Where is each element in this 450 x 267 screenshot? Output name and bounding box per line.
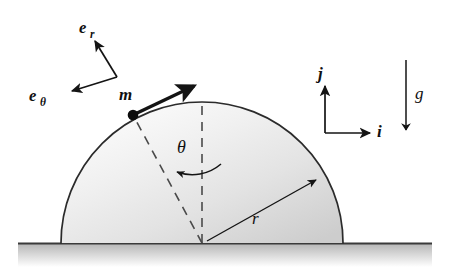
- theta-angle-label: θ: [177, 137, 186, 157]
- e-r-label-subscript: r: [90, 28, 95, 40]
- physics-diagram-canvas: e r e θ m θ r i j g: [0, 0, 450, 267]
- i-hat-label: i: [377, 122, 382, 141]
- radius-label: r: [252, 209, 259, 228]
- e-r-label-base: e: [79, 18, 86, 37]
- e-theta-label-base: e: [29, 86, 36, 105]
- ground-fill: [18, 243, 432, 267]
- e-theta-label-subscript: θ: [40, 96, 46, 108]
- dome-mass-diagram: e r e θ m θ r i j g: [0, 0, 450, 267]
- j-hat-label: j: [315, 64, 323, 83]
- mass-label: m: [119, 85, 132, 104]
- gravity-label: g: [415, 84, 424, 103]
- e-r-vector-arrow: [95, 41, 117, 77]
- mass-point-marker: [128, 110, 139, 121]
- e-theta-vector-arrow: [72, 77, 117, 91]
